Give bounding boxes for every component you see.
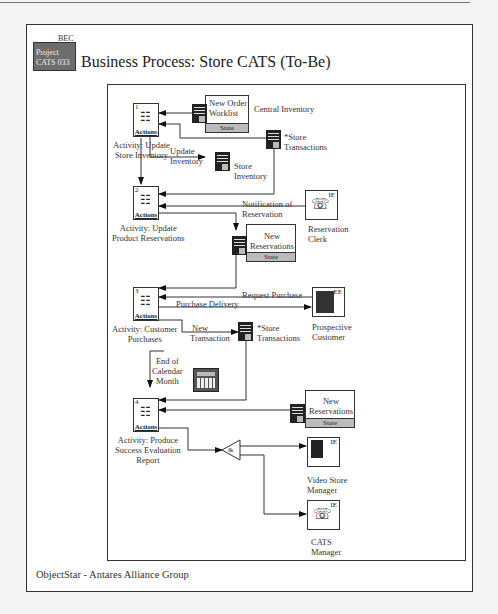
activity-caption: Store Inventory (113, 150, 170, 160)
data-store-icon (215, 152, 230, 171)
activity-caption: Activity: Update (112, 223, 184, 233)
activity-label: Actions (134, 128, 158, 136)
entity-label: Video Store (307, 475, 347, 485)
entity-label: Clerk (308, 234, 349, 244)
activity-caption: Success Evaluation (115, 445, 181, 455)
entity-tag: EE (333, 288, 342, 296)
activity-caption: Activity: Customer (112, 324, 177, 334)
activity-caption: Activity: Produce (115, 435, 181, 445)
actions-icon: ☷ (140, 193, 151, 208)
store-label: *Store (257, 323, 300, 333)
activity-caption: Purchases (112, 334, 177, 344)
store-label: Inventory (234, 171, 267, 181)
entity-label: Customer (312, 332, 352, 342)
new-order-worklist-store[interactable]: New Order Worklist State (205, 95, 249, 133)
store-label: Reservations (308, 406, 354, 416)
entity-tag: IE (330, 438, 337, 446)
clerk-icon: ☏ (311, 195, 330, 213)
activity-label: Actions (134, 211, 158, 219)
activity-caption: Product Reservations (112, 233, 184, 243)
calendar-icon (193, 368, 219, 392)
store-label: Transactions (257, 333, 300, 343)
actions-icon: ☷ (140, 405, 151, 420)
clerk-icon: ☏ (313, 505, 332, 523)
activity-3[interactable]: 3 ☷ Actions (133, 287, 159, 321)
store-label: Reservations (249, 241, 295, 251)
data-store-icon (232, 236, 247, 255)
new-reservations-store[interactable]: New Reservations State (305, 390, 355, 428)
activity-number: 1 (135, 103, 139, 111)
activity-1[interactable]: 1 ☷ Actions (133, 103, 159, 137)
cats-manager-entity[interactable]: IE ☏ (307, 500, 340, 530)
flow-label: Calendar (152, 366, 183, 376)
data-store-icon (192, 104, 207, 123)
entity-label: Reservation (308, 224, 349, 234)
video-store-manager-entity[interactable]: IE (307, 437, 340, 467)
and-gate-label: & (228, 445, 233, 455)
activity-label: Actions (134, 312, 158, 320)
activity-4[interactable]: 4 ☷ Actions (133, 398, 159, 432)
state-label: State (206, 123, 248, 132)
entity-label: CATS (311, 537, 341, 547)
new-reservations-store[interactable]: New Reservations State (246, 224, 296, 262)
store-label: *Store (284, 132, 327, 142)
flow-connectors (0, 0, 498, 614)
flow-label: End of (152, 356, 183, 366)
actions-icon: ☷ (140, 294, 151, 309)
prospective-customer-entity[interactable]: EE (312, 287, 345, 317)
store-label: Transactions (284, 142, 327, 152)
entity-label: Manager (311, 547, 341, 557)
activity-number: 4 (135, 398, 139, 406)
flow-label: Request Purchase (242, 290, 302, 300)
flow-label: Inventory (170, 156, 203, 166)
flow-label: Update (170, 146, 203, 156)
store-label: Store (234, 161, 267, 171)
film-icon (311, 440, 323, 458)
customer-icon (316, 291, 334, 313)
store-label: New (249, 231, 295, 241)
activity-caption: Report (115, 455, 181, 465)
activity-label: Actions (134, 423, 158, 431)
state-label: State (306, 418, 354, 427)
store-label: New Order (209, 98, 247, 108)
flow-label: New (190, 323, 230, 333)
store-label: Worklist (209, 108, 247, 118)
activity-caption: Activity: Update (113, 140, 170, 150)
reservation-clerk-entity[interactable]: IE ☏ (305, 190, 338, 220)
data-store-icon (238, 322, 253, 341)
data-store-icon (266, 130, 281, 149)
data-store-icon (290, 404, 305, 423)
entity-label: Manager (307, 485, 347, 495)
actions-icon: ☷ (140, 110, 151, 125)
activity-number: 2 (135, 186, 139, 194)
central-inventory-label: Central Inventory (254, 104, 314, 114)
activity-2[interactable]: 2 ☷ Actions (133, 186, 159, 220)
footer-text: ObjectStar - Antares Alliance Group (36, 569, 189, 580)
flow-label: Transaction (190, 333, 230, 343)
entity-label: Prospective (312, 322, 352, 332)
activity-number: 3 (135, 287, 139, 295)
flow-label: Month (152, 376, 183, 386)
flow-label: Notification of (242, 199, 292, 209)
store-label: New (308, 396, 354, 406)
state-label: State (247, 252, 295, 261)
flow-label: Reservation (242, 209, 292, 219)
flow-label: Purchase Delivery (176, 299, 239, 309)
